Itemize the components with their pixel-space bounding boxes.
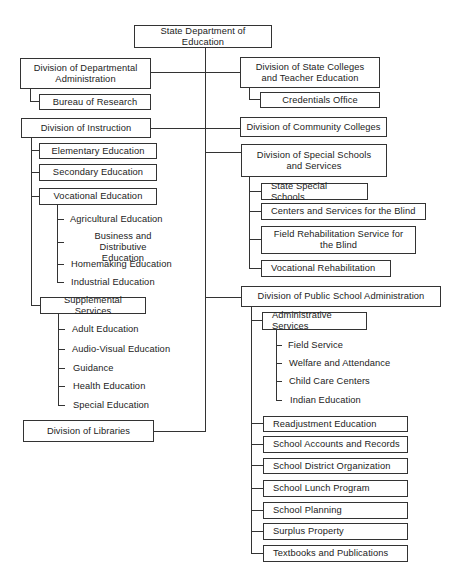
connector-line bbox=[249, 191, 261, 192]
libraries-label: Division of Libraries bbox=[47, 426, 130, 437]
node-centers-services-blind: Centers and Services for the Blind bbox=[261, 203, 426, 220]
node-school-planning: School Planning bbox=[263, 502, 408, 519]
supplemental-vertical-line bbox=[58, 314, 59, 406]
field-rehab-label-line2: the Blind bbox=[320, 240, 357, 251]
root-label: State Department of Education bbox=[139, 26, 267, 48]
connector-line bbox=[251, 531, 263, 532]
connector-line bbox=[57, 242, 64, 243]
centers-services-blind-label: Centers and Services for the Blind bbox=[271, 206, 415, 217]
connector-line bbox=[249, 239, 261, 240]
credentials-office-label: Credentials Office bbox=[282, 95, 358, 106]
connector-special-schools bbox=[205, 152, 241, 153]
node-school-accounts-records: School Accounts and Records bbox=[263, 436, 408, 453]
connector-line bbox=[251, 320, 262, 321]
item-indian-education: Indian Education bbox=[290, 395, 361, 406]
connector-line bbox=[30, 101, 39, 102]
vocational-rehabilitation-label: Vocational Rehabilitation bbox=[271, 263, 375, 274]
node-surplus-property: Surplus Property bbox=[263, 523, 408, 540]
school-district-organization-label: School District Organization bbox=[273, 461, 391, 472]
root-node-state-dept-education: State Department of Education bbox=[134, 25, 272, 48]
connector-line bbox=[31, 196, 39, 197]
connector-line bbox=[251, 444, 263, 445]
connector-line bbox=[276, 345, 282, 346]
readjustment-education-label: Readjustment Education bbox=[273, 419, 377, 430]
node-division-of-instruction: Division of Instruction bbox=[21, 118, 151, 138]
connector-line bbox=[58, 349, 65, 350]
admin-services-vertical-line bbox=[276, 330, 277, 401]
public-school-vertical-line bbox=[251, 307, 252, 554]
connector-instruction-community-colleges bbox=[150, 128, 241, 129]
node-administrative-services: Administrative Services bbox=[262, 312, 367, 330]
connector-line bbox=[58, 329, 65, 330]
school-accounts-records-label: School Accounts and Records bbox=[273, 439, 400, 450]
school-planning-label: School Planning bbox=[273, 505, 342, 516]
field-rehab-label-line1: Field Rehabilitation Service for bbox=[274, 229, 403, 240]
special-schools-label-line2: and Services bbox=[287, 161, 342, 172]
connector-line bbox=[31, 305, 40, 306]
connector-line bbox=[57, 219, 64, 220]
node-school-district-organization: School District Organization bbox=[263, 458, 408, 474]
vocational-education-label: Vocational Education bbox=[54, 191, 143, 202]
state-special-schools-label: State Special Schools bbox=[271, 181, 363, 203]
node-supplemental-services: Supplemental Services bbox=[40, 297, 146, 314]
dept-admin-label-line1: Division of Departmental bbox=[34, 63, 138, 74]
node-bureau-of-research: Bureau of Research bbox=[39, 94, 151, 110]
node-vocational-education: Vocational Education bbox=[39, 188, 157, 205]
dept-admin-label-line2: Administration bbox=[55, 74, 115, 85]
instruction-vertical-line bbox=[31, 138, 32, 306]
instruction-label: Division of Instruction bbox=[41, 123, 132, 134]
main-trunk-line bbox=[205, 48, 206, 432]
node-secondary-education: Secondary Education bbox=[39, 164, 157, 181]
connector-public-school-admin bbox=[205, 297, 241, 298]
item-adult-education: Adult Education bbox=[72, 324, 139, 335]
business-label-line1: Business and Distributive bbox=[70, 231, 176, 253]
connector-line bbox=[251, 488, 263, 489]
bureau-of-research-label: Bureau of Research bbox=[53, 97, 138, 108]
school-lunch-program-label: School Lunch Program bbox=[273, 483, 370, 494]
item-special-education: Special Education bbox=[73, 400, 149, 411]
node-textbooks-publications: Textbooks and Publications bbox=[263, 545, 408, 562]
node-vocational-rehabilitation: Vocational Rehabilitation bbox=[261, 260, 391, 277]
vocational-vertical-line bbox=[57, 205, 58, 283]
node-division-state-colleges-teacher-education: Division of State Colleges and Teacher E… bbox=[240, 57, 380, 88]
connector-line bbox=[251, 553, 263, 554]
node-state-special-schools: State Special Schools bbox=[261, 183, 368, 200]
public-school-admin-label: Division of Public School Administration bbox=[258, 291, 425, 302]
item-child-care-centers: Child Care Centers bbox=[289, 376, 370, 387]
item-health-education: Health Education bbox=[73, 381, 145, 392]
supplemental-services-label: Supplemental Services bbox=[45, 295, 141, 317]
connector-line bbox=[276, 363, 282, 364]
connector-line bbox=[276, 400, 282, 401]
connector-libraries bbox=[153, 431, 206, 432]
connector-line bbox=[58, 386, 65, 387]
item-guidance: Guidance bbox=[73, 363, 114, 374]
node-school-lunch-program: School Lunch Program bbox=[263, 480, 408, 497]
secondary-education-label: Secondary Education bbox=[53, 167, 143, 178]
node-readjustment-education: Readjustment Education bbox=[263, 416, 408, 432]
item-field-service: Field Service bbox=[288, 340, 343, 351]
connector-line bbox=[57, 264, 64, 265]
node-division-public-school-administration: Division of Public School Administration bbox=[241, 286, 441, 307]
connector-line bbox=[276, 381, 282, 382]
surplus-property-label: Surplus Property bbox=[273, 526, 344, 537]
connector-line bbox=[249, 268, 261, 269]
node-field-rehabilitation-service-blind: Field Rehabilitation Service for the Bli… bbox=[261, 226, 416, 254]
connector-line bbox=[57, 282, 64, 283]
connector-line bbox=[31, 150, 39, 151]
item-audio-visual-education: Audio-Visual Education bbox=[72, 344, 170, 355]
connector-line bbox=[58, 405, 65, 406]
item-agricultural-education: Agricultural Education bbox=[70, 214, 163, 225]
textbooks-publications-label: Textbooks and Publications bbox=[273, 548, 388, 559]
item-industrial-education: Industrial Education bbox=[71, 277, 155, 288]
connector-line bbox=[251, 465, 263, 466]
item-homemaking-education: Homemaking Education bbox=[71, 259, 172, 270]
elementary-education-label: Elementary Education bbox=[52, 146, 145, 157]
connector-line bbox=[58, 368, 65, 369]
node-credentials-office: Credentials Office bbox=[260, 92, 380, 108]
node-division-departmental-administration: Division of Departmental Administration bbox=[20, 58, 151, 89]
connector-line bbox=[249, 211, 261, 212]
connector-line bbox=[31, 172, 39, 173]
state-colleges-label-line1: Division of State Colleges bbox=[256, 62, 365, 73]
node-division-special-schools-services: Division of Special Schools and Services bbox=[241, 144, 387, 177]
connector-dept-admin-state-colleges bbox=[150, 72, 241, 73]
